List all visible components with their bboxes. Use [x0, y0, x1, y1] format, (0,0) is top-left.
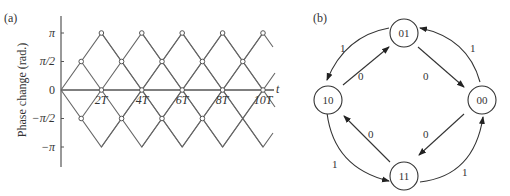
- y-tick-neg-pi: −π: [41, 140, 56, 154]
- state-label-11: 11: [399, 170, 410, 182]
- state-node-01: 01: [390, 19, 418, 47]
- panel-a-phase-trellis: (a) Phase change (rad.) π π/2 0 −π/2 −π: [4, 11, 280, 167]
- state-node-10: 10: [314, 86, 342, 114]
- edge-label-10-01: 0: [358, 70, 364, 82]
- y-tick-neg-half-pi: −π/2: [32, 111, 55, 125]
- panel-b-label: (b): [313, 11, 327, 25]
- state-label-10: 10: [323, 94, 335, 106]
- state-label-01: 01: [399, 27, 410, 39]
- x-axis-label: t: [276, 82, 280, 96]
- panel-a-label: (a): [4, 11, 17, 25]
- x-tick-2T: 2T: [95, 93, 109, 107]
- edge-label-00-01: 1: [470, 42, 476, 54]
- edge-label-01-00: 0: [423, 70, 429, 82]
- edge-label-11-00: 1: [462, 166, 468, 178]
- state-node-11: 11: [390, 162, 418, 190]
- edge-label-00-11: 0: [423, 128, 429, 140]
- figure-canvas: (a) Phase change (rad.) π π/2 0 −π/2 −π: [0, 0, 510, 196]
- edge-label-11-10: 0: [368, 128, 374, 140]
- x-tick-8T: 8T: [216, 93, 230, 107]
- x-tick-4T: 4T: [136, 93, 150, 107]
- edge-label-01-10: 1: [340, 42, 346, 54]
- edge-label-10-11: 1: [332, 158, 338, 170]
- x-tick-10T: 10T: [254, 93, 274, 107]
- y-tick-zero: 0: [49, 83, 55, 97]
- state-label-00: 00: [477, 94, 489, 106]
- x-tick-6T: 6T: [176, 93, 190, 107]
- y-tick-half-pi: π/2: [40, 54, 55, 68]
- y-axis-label: Phase change (rad.): [15, 43, 29, 137]
- state-transitions: [327, 28, 483, 182]
- y-tick-pi: π: [49, 26, 56, 40]
- state-node-00: 00: [468, 86, 496, 114]
- panel-b-state-diagram: (b) 1 0 0 1 0 1 0 1: [313, 11, 496, 190]
